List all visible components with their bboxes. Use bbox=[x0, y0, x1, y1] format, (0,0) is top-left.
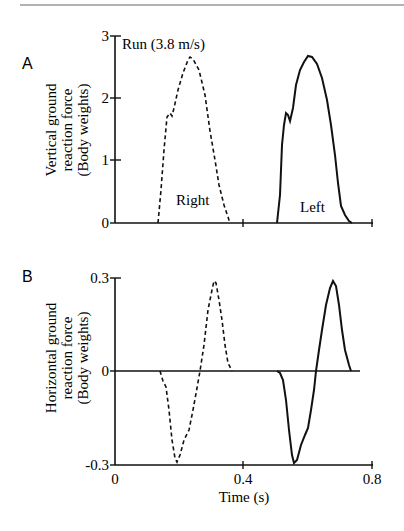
svg-text:0: 0 bbox=[102, 215, 110, 231]
svg-text:Vertical ground: Vertical ground bbox=[43, 83, 59, 176]
panel-b-left-curve bbox=[277, 281, 351, 463]
svg-text:0: 0 bbox=[111, 471, 119, 487]
svg-text:0.3: 0.3 bbox=[90, 270, 109, 286]
svg-text:reaction force: reaction force bbox=[59, 316, 75, 399]
panel-b: B Horizontal ground reaction force (Body… bbox=[22, 268, 381, 506]
x-axis-title: Time (s) bbox=[219, 489, 270, 506]
panel-a-ylabel: Vertical ground reaction force (Body wei… bbox=[43, 83, 92, 176]
figure: A Vertical ground reaction force (Body w… bbox=[0, 0, 404, 531]
panel-a-letter: A bbox=[22, 55, 33, 72]
panel-a-annotation: Run (3.8 m/s) bbox=[122, 36, 205, 53]
label-left: Left bbox=[300, 199, 326, 215]
svg-text:(Body weights): (Body weights) bbox=[75, 312, 92, 405]
svg-text:1: 1 bbox=[102, 152, 110, 168]
svg-text:Horizontal ground: Horizontal ground bbox=[43, 302, 59, 413]
svg-text:(Body weights): (Body weights) bbox=[75, 84, 92, 177]
panel-a-left-curve bbox=[277, 56, 352, 223]
svg-text:2: 2 bbox=[102, 90, 110, 106]
panel-a-yticks: 0 1 2 3 bbox=[102, 28, 110, 231]
label-right: Right bbox=[176, 192, 210, 208]
svg-text:0: 0 bbox=[102, 363, 110, 379]
svg-text:3: 3 bbox=[102, 28, 110, 44]
panel-b-ylabel: Horizontal ground reaction force (Body w… bbox=[43, 302, 92, 413]
panel-b-letter: B bbox=[22, 268, 33, 285]
svg-text:0.8: 0.8 bbox=[363, 471, 382, 487]
panel-a: A Vertical ground reaction force (Body w… bbox=[22, 28, 373, 231]
svg-text:-0.3: -0.3 bbox=[85, 457, 109, 473]
svg-text:reaction force: reaction force bbox=[59, 88, 75, 171]
panel-b-xticks: 0 0.4 0.8 bbox=[111, 471, 381, 487]
svg-text:0.4: 0.4 bbox=[234, 471, 253, 487]
